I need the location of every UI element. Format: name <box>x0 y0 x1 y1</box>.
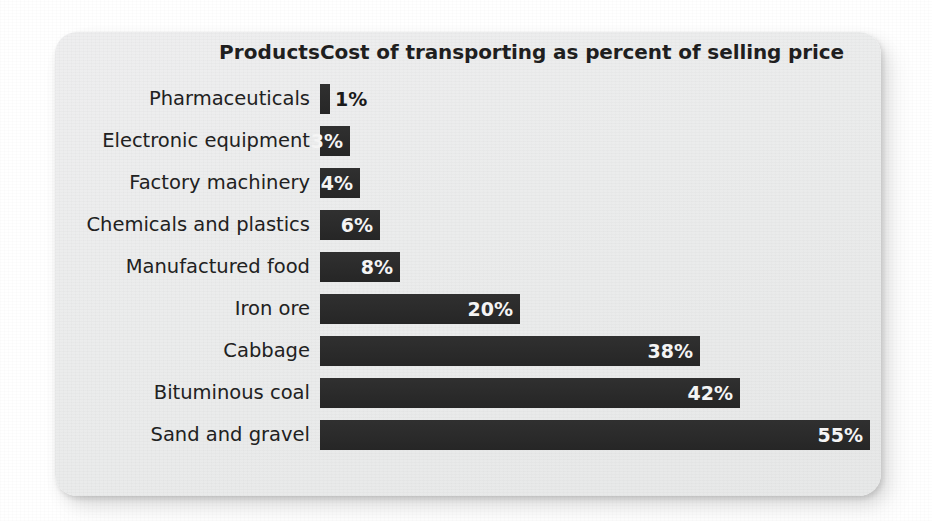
bar-category-label: Electronic equipment <box>55 126 310 156</box>
bar-value-label: 4% <box>321 168 353 198</box>
bar-track: 38% <box>320 336 700 366</box>
bar-category-label: Pharmaceuticals <box>55 84 310 114</box>
bar-row: Sand and gravel55% <box>55 420 881 462</box>
bar-fill <box>320 378 740 408</box>
bar-track: 42% <box>320 378 740 408</box>
bar-row: Factory machinery4% <box>55 168 881 210</box>
bar-rows: Pharmaceuticals1%Electronic equipment3%F… <box>55 84 881 462</box>
bar-value-label: 38% <box>648 336 693 366</box>
bar-category-label: Factory machinery <box>55 168 310 198</box>
bar-chart-card: Products Cost of transporting as percent… <box>55 32 881 496</box>
bar-fill <box>320 420 870 450</box>
bar-value-label: 42% <box>688 378 733 408</box>
bar-value-label: 3% <box>311 126 343 156</box>
bar-value-label: 55% <box>818 420 863 450</box>
bar-track: 4% <box>320 168 360 198</box>
bar-value-label: 8% <box>361 252 393 282</box>
bar-track: 20% <box>320 294 520 324</box>
products-column-header: Products <box>55 40 320 64</box>
bar-track: 1% <box>320 84 330 114</box>
bar-row: Iron ore20% <box>55 294 881 336</box>
bar-row: Electronic equipment3% <box>55 126 881 168</box>
bar-track: 55% <box>320 420 870 450</box>
bar-category-label: Manufactured food <box>55 252 310 282</box>
chart-title: Cost of transporting as percent of selli… <box>320 40 844 64</box>
bar-value-label: 6% <box>341 210 373 240</box>
chart-header-row: Products Cost of transporting as percent… <box>55 40 881 78</box>
bar-track: 8% <box>320 252 400 282</box>
bar-row: Cabbage38% <box>55 336 881 378</box>
bar-row: Bituminous coal42% <box>55 378 881 420</box>
bar-row: Chemicals and plastics6% <box>55 210 881 252</box>
bar-value-label: 20% <box>468 294 513 324</box>
bar-category-label: Iron ore <box>55 294 310 324</box>
bar-fill <box>320 84 330 114</box>
bar-category-label: Bituminous coal <box>55 378 310 408</box>
bar-category-label: Sand and gravel <box>55 420 310 450</box>
bar-row: Pharmaceuticals1% <box>55 84 881 126</box>
bar-track: 3% <box>320 126 350 156</box>
bar-fill <box>320 336 700 366</box>
bar-track: 6% <box>320 210 380 240</box>
bar-row: Manufactured food8% <box>55 252 881 294</box>
bar-value-label: 1% <box>335 84 367 114</box>
bar-category-label: Chemicals and plastics <box>55 210 310 240</box>
bar-category-label: Cabbage <box>55 336 310 366</box>
